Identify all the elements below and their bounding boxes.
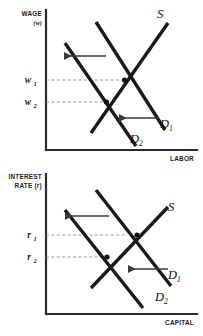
tick-label-w2-sub: 2 bbox=[32, 102, 37, 109]
demand-curve-1-label: D bbox=[159, 117, 169, 131]
demand-curve-2-label: D bbox=[154, 290, 164, 304]
demand-curve-2 bbox=[65, 210, 143, 308]
tick-label-r1-base: r bbox=[27, 230, 31, 240]
demand-curve-2 bbox=[65, 43, 136, 146]
tick-label-w2-base: w bbox=[25, 97, 32, 107]
tick-label-r2-base: r bbox=[27, 252, 31, 262]
y-axis-title-line2: (w) bbox=[33, 19, 42, 27]
demand-curve-1-label-sub: 1 bbox=[169, 124, 173, 133]
y-axis-title-line1: WAGE bbox=[21, 10, 42, 17]
demand-curve-1-label: D bbox=[167, 268, 177, 282]
figure-wage-labor-market: WAGE (w) LABOR w 1 w 2 S D 1 bbox=[0, 0, 203, 168]
economics-diagram-page: WAGE (w) LABOR w 1 w 2 S D 1 bbox=[0, 0, 203, 336]
tick-label-w1-sub: 1 bbox=[33, 80, 36, 87]
y-axis-title-line2: RATE (r) bbox=[15, 182, 42, 190]
supply-curve-label: S bbox=[168, 200, 175, 214]
tick-label-r2-sub: 2 bbox=[32, 257, 37, 264]
equilibrium-point-r2 bbox=[104, 254, 109, 259]
figure-interest-rate-capital-market: INTEREST RATE (r) CAPITAL r 1 r 2 S D bbox=[0, 168, 203, 336]
tick-label-r1-sub: 1 bbox=[33, 235, 36, 242]
supply-curve bbox=[91, 207, 168, 288]
demand-curve-2-label-sub: 2 bbox=[139, 139, 143, 148]
x-axis-title: LABOR bbox=[170, 155, 194, 162]
tick-label-w1-base: w bbox=[25, 75, 32, 85]
equilibrium-point-r1 bbox=[134, 232, 139, 237]
supply-curve-label: S bbox=[157, 7, 164, 21]
equilibrium-point-w2 bbox=[104, 99, 109, 104]
demand-curve-2-label: D bbox=[129, 132, 139, 146]
y-axis-title-line1: INTEREST bbox=[8, 173, 42, 180]
demand-curve-1-label-sub: 1 bbox=[177, 275, 181, 284]
x-axis-title: CAPITAL bbox=[165, 319, 194, 326]
demand-curve-2-label-sub: 2 bbox=[164, 297, 168, 306]
equilibrium-point-w1 bbox=[122, 77, 127, 82]
